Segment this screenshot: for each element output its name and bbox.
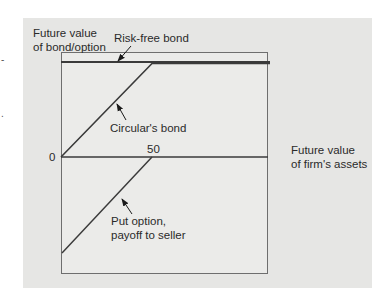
put-option-label-line2: payoff to seller <box>111 228 186 242</box>
put-option-label: Put option, payoff to seller <box>111 214 186 242</box>
y-axis-label: Future value of bond/option <box>33 26 106 54</box>
x-axis-label-line2: of firm's assets <box>291 157 367 171</box>
tick-label-50: 50 <box>147 142 160 156</box>
y-axis-label-line1: Future value <box>33 26 106 40</box>
risk-free-bond-label: Risk-free bond <box>114 31 189 45</box>
put-option-arrow <box>122 199 132 214</box>
put-option-label-line1: Put option, <box>111 214 186 228</box>
risk-free-arrow <box>118 46 131 61</box>
circulars-bond-line <box>61 64 270 158</box>
x-axis-label: Future value of firm's assets <box>291 143 367 171</box>
y-axis-label-line2: of bond/option <box>33 40 106 54</box>
origin-label: 0 <box>49 150 55 164</box>
x-axis-label-line1: Future value <box>291 143 367 157</box>
circulars-bond-label: Circular's bond <box>110 121 186 135</box>
circular-bond-arrow <box>117 104 126 120</box>
